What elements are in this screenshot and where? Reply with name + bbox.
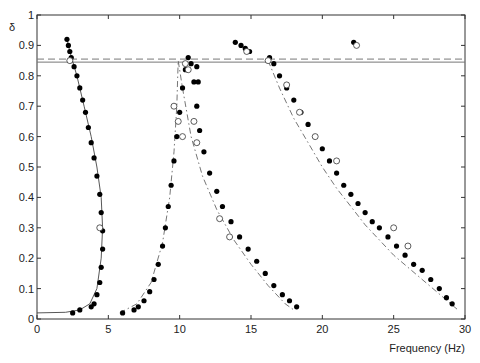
dash-dot-curve-2 (268, 61, 458, 310)
y-tick-label: 0.5 (19, 161, 34, 173)
data-point-open (334, 158, 340, 164)
data-point-filled (194, 64, 199, 69)
y-tick-label: 0.7 (19, 100, 34, 112)
data-point-filled (420, 268, 425, 273)
data-point-filled (428, 277, 433, 282)
data-point-filled (99, 210, 104, 215)
data-point-filled (70, 310, 75, 315)
x-tick-label: 10 (174, 323, 186, 335)
y-tick-label: 0 (28, 313, 34, 325)
data-point-filled (97, 280, 102, 285)
data-point-open (171, 103, 177, 109)
data-point-filled (305, 122, 310, 127)
data-point-filled (385, 234, 390, 239)
data-point-filled (334, 170, 339, 175)
y-tick-label: 0.3 (19, 222, 34, 234)
data-point-filled (291, 98, 296, 103)
data-point-filled (99, 265, 104, 270)
dash-dot-curve-1 (120, 61, 294, 313)
data-point-filled (201, 149, 206, 154)
data-point-filled (174, 134, 179, 139)
data-point-filled (450, 301, 455, 306)
data-point-filled (94, 292, 99, 297)
data-point-filled (147, 289, 152, 294)
data-point-filled (186, 55, 191, 60)
y-tick-label: 1 (28, 9, 34, 21)
data-point-open (194, 140, 200, 146)
data-point-filled (77, 85, 82, 90)
data-point-filled (355, 201, 360, 206)
data-point-filled (246, 246, 251, 251)
data-point-filled (411, 262, 416, 267)
data-point-filled (163, 225, 168, 230)
data-point-filled (197, 128, 202, 133)
data-point-filled (89, 304, 94, 309)
data-point-filled (74, 73, 79, 78)
data-point-open (405, 243, 411, 249)
y-axis-label: δ (9, 21, 15, 33)
x-tick-label: 5 (105, 323, 111, 335)
data-point-open (391, 225, 397, 231)
data-point-filled (97, 192, 102, 197)
data-point-filled (67, 49, 72, 54)
x-tick-label: 15 (245, 323, 257, 335)
data-point-filled (86, 125, 91, 130)
data-point-open (97, 225, 103, 231)
x-tick-label: 30 (459, 323, 471, 335)
data-point-filled (287, 298, 292, 303)
data-point-open (185, 67, 191, 73)
y-tick-label: 0.9 (19, 39, 34, 51)
data-point-filled (66, 43, 71, 48)
y-tick-label: 0.1 (19, 283, 34, 295)
data-point-filled (100, 246, 105, 251)
data-point-open (354, 42, 360, 48)
data-point-filled (277, 73, 282, 78)
data-point-filled (341, 183, 346, 188)
data-point-filled (80, 98, 85, 103)
data-point-filled (402, 253, 407, 258)
data-point-open (244, 48, 250, 54)
y-tick-label: 0.2 (19, 252, 34, 264)
data-point-filled (237, 234, 242, 239)
data-point-filled (280, 292, 285, 297)
chart-container: 05101520253000.10.20.30.40.50.60.70.80.9… (0, 0, 480, 363)
data-point-filled (141, 298, 146, 303)
data-point-open (265, 58, 271, 64)
data-point-open (182, 61, 188, 67)
data-point-filled (196, 79, 201, 84)
data-point-filled (207, 170, 212, 175)
data-point-open (217, 216, 223, 222)
y-tick-label: 0.6 (19, 131, 34, 143)
data-point-open (227, 234, 233, 240)
data-point-filled (151, 277, 156, 282)
data-point-filled (180, 85, 185, 90)
data-point-filled (160, 243, 165, 248)
data-point-filled (327, 158, 332, 163)
data-point-filled (77, 307, 82, 312)
data-point-filled (394, 243, 399, 248)
data-point-filled (271, 61, 276, 66)
data-point-filled (166, 204, 171, 209)
data-point-open (312, 134, 318, 140)
data-point-open (297, 109, 303, 115)
data-point-filled (171, 158, 176, 163)
data-point-filled (363, 210, 368, 215)
solid-curve (37, 39, 103, 313)
data-point-filled (377, 225, 382, 230)
data-point-filled (228, 219, 233, 224)
data-point-filled (238, 43, 243, 48)
data-point-filled (177, 110, 182, 115)
data-point-open (191, 118, 197, 124)
data-point-filled (94, 174, 99, 179)
data-point-filled (271, 283, 276, 288)
data-point-filled (83, 110, 88, 115)
data-point-filled (348, 192, 353, 197)
data-point-filled (320, 146, 325, 151)
data-point-filled (254, 259, 259, 264)
x-tick-label: 25 (388, 323, 400, 335)
plot-frame (37, 15, 465, 319)
data-point-filled (263, 271, 268, 276)
data-point-filled (131, 307, 136, 312)
data-point-filled (370, 219, 375, 224)
data-point-filled (194, 104, 199, 109)
